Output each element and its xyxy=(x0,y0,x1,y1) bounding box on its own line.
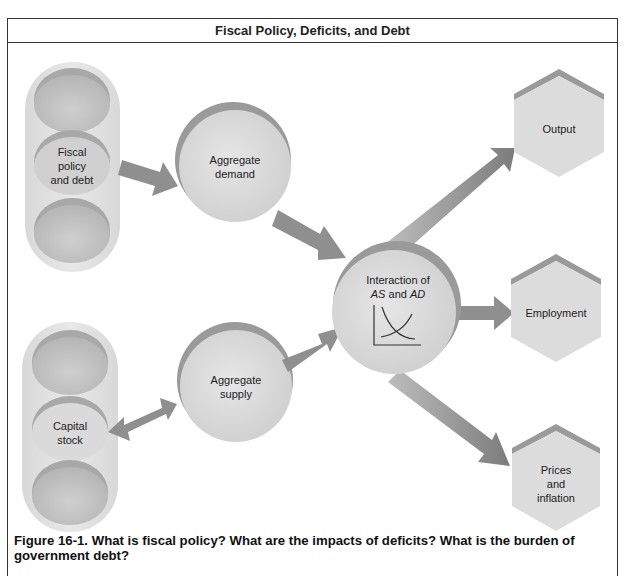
label-capital-stock: Capital stock xyxy=(53,419,87,447)
label-line: and debt xyxy=(51,173,94,187)
ad-text: AD xyxy=(410,288,425,300)
and-text: and xyxy=(385,288,409,300)
label-aggregate-demand: Aggregate demand xyxy=(210,153,261,181)
arrow-demand-to-interaction xyxy=(272,210,346,260)
label-line: policy xyxy=(51,159,94,173)
label-fiscal-policy: Fiscal policy and debt xyxy=(51,145,94,187)
label-line: AS and AD xyxy=(366,287,430,301)
label-line: demand xyxy=(210,167,261,181)
label-aggregate-supply: Aggregate supply xyxy=(211,373,262,401)
label-line: Capital xyxy=(53,419,87,433)
arrow-to-employment xyxy=(455,296,514,330)
label-line: and xyxy=(537,477,575,491)
label-line: supply xyxy=(211,387,262,401)
label-line: Fiscal xyxy=(51,145,94,159)
label-line: Aggregate xyxy=(211,373,262,387)
label-employment: Employment xyxy=(525,306,586,320)
figure-caption: Figure 16-1. What is fiscal policy? What… xyxy=(14,533,614,563)
label-line: inflation xyxy=(537,491,575,505)
label-line: Prices xyxy=(537,463,575,477)
arrow-fiscal-to-demand xyxy=(118,160,178,196)
arrow-supply-to-interaction xyxy=(282,327,343,372)
label-output: Output xyxy=(542,122,575,136)
label-line: Interaction of xyxy=(366,273,430,287)
arrow-to-prices xyxy=(388,370,510,466)
label-interaction: Interaction of AS and AD xyxy=(366,273,430,301)
as-text: AS xyxy=(371,288,386,300)
label-line: stock xyxy=(53,433,87,447)
interaction-node xyxy=(332,241,461,374)
label-line: Aggregate xyxy=(210,153,261,167)
flow-diagram xyxy=(0,0,626,576)
arrow-capital-supply xyxy=(108,398,177,441)
label-prices-inflation: Prices and inflation xyxy=(537,463,575,505)
